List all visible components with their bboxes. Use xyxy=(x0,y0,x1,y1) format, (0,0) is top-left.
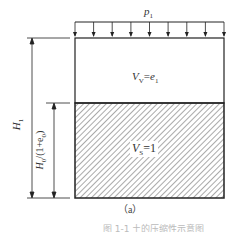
subfigure-label: （a） xyxy=(118,201,142,216)
soil-phase-diagram xyxy=(0,0,247,232)
void-volume-label: VV=e1 xyxy=(132,70,158,85)
dimension-solid-height xyxy=(46,103,70,198)
solid-height-label: H0/(1+e0) xyxy=(34,131,48,170)
total-height-label: H1 xyxy=(10,119,25,130)
distributed-load xyxy=(73,22,226,37)
figure-caption-fragment: 图 1-1 土的压缩性示意图 xyxy=(103,222,204,232)
dimension-total-height xyxy=(27,38,70,198)
load-label: p1 xyxy=(144,5,153,20)
solid-volume-label: VS=1 xyxy=(130,141,158,157)
